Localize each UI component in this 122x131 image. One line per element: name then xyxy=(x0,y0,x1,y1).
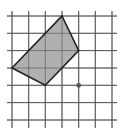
marked-point xyxy=(76,83,81,88)
grid-diagram xyxy=(0,0,122,131)
